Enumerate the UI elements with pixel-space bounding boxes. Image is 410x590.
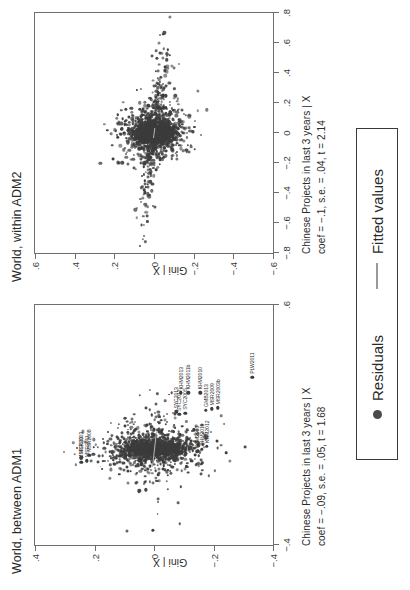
scatter-point [135,455,138,458]
scatter-point [125,417,127,419]
scatter-point [180,109,183,112]
scatter-point [157,114,160,117]
scatter-point [99,161,102,164]
scatter-point [173,67,176,70]
scatter-point [165,442,168,445]
scatter-point [186,471,189,474]
scatter-point [120,432,123,435]
scatter-point [169,470,171,472]
x-tick-label: 0 [281,130,292,135]
scatter-point [101,468,103,470]
scatter-point [151,472,153,474]
scatter-point [127,424,129,426]
scatter-point [145,406,148,409]
scatter-point [173,87,175,89]
scatter-point [133,154,135,156]
scatter-point [135,472,137,474]
scatter-point [177,136,180,139]
labeled-scatter-point [216,406,219,409]
scatter-point [142,215,144,217]
scatter-point [150,469,152,471]
scatter-point [102,438,104,440]
scatter-point [138,139,141,142]
scatter-point [140,88,142,90]
scatter-point [142,166,144,168]
scatter-point [124,107,127,110]
scatter-point [137,118,140,121]
scatter-point [143,224,145,226]
scatter-point [200,134,202,136]
scatter-point [168,81,171,84]
scatter-point [106,443,108,445]
y-tick-mark [214,545,215,551]
x-tick-label: .2 [281,99,292,107]
scatter-point [152,429,155,432]
scatter-point [145,424,148,427]
scatter-point [110,422,112,424]
scatter-point [181,425,184,428]
scatter-point [200,472,203,475]
x-tick-label: .4 [281,69,292,77]
scatter-point [104,451,107,454]
scatter-point [154,143,157,146]
scatter-point [155,81,158,84]
scatter-point [123,132,126,135]
scatter-point [132,145,134,147]
scatter-point [148,422,151,425]
scatter-point [144,179,146,181]
scatter-point [148,472,151,475]
scatter-point [174,94,177,97]
scatter-point [174,417,177,420]
scatter-point [151,183,154,186]
scatter-point [113,442,116,445]
scatter-point-label: KHM2011b [185,365,191,390]
scatter-point [109,477,112,480]
scatter-point [155,49,158,52]
scatter-point [194,453,197,456]
x-tick-mark [273,162,279,163]
scatter-point [136,217,139,220]
scatter-point [157,497,160,500]
x-tick-mark [273,544,279,545]
scatter-point [144,433,147,436]
scatter-point [190,145,193,148]
scatter-point [160,52,163,55]
labeled-scatter-point [87,453,90,456]
scatter-point [113,462,116,465]
scatter-point [112,158,115,161]
scatter-point [149,409,151,411]
scatter-point [223,423,225,425]
scatter-point [186,144,188,146]
scatter-point [189,451,191,453]
figure: World, between ADM1 .4.20−.2−.4−.4.6MSR2… [0,0,410,590]
scatter-point [135,168,137,170]
scatter-point [142,193,145,196]
scatter-point [150,164,153,167]
scatter-point [153,419,156,422]
scatter-point [146,176,149,179]
scatter-point [187,151,190,154]
scatter-point [140,162,143,165]
scatter-point [152,174,156,178]
scatter-point [172,119,175,122]
labeled-scatter-point [204,408,207,411]
scatter-point [144,439,147,442]
panel-title-adm1: World, between ADM1 [10,448,24,574]
residual-dot-icon [373,410,382,419]
scatter-point [128,149,131,152]
scatter-point [136,443,139,446]
scatter-point [215,439,218,442]
scatter-point [117,427,119,429]
x-tick-mark [273,12,279,13]
scatter-point [159,460,162,463]
scatter-point [214,469,216,471]
scatter-point [163,65,166,68]
scatter-point [63,451,65,453]
scatter-point [109,455,112,458]
scatter-point [115,116,118,119]
scatter-point [151,426,154,429]
scatter-point [104,460,106,462]
scatter-point [92,453,95,456]
scatter-point [186,429,189,432]
scatter-point [111,451,114,454]
